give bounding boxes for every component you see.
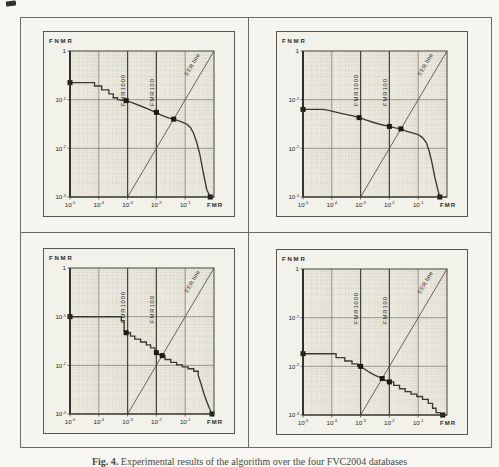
- svg-text:10-3: 10-3: [288, 411, 299, 418]
- svg-text:10-2: 10-2: [151, 417, 162, 424]
- det-plot-1: FMR1000FMR100EER line110-110-210-310-510…: [43, 31, 235, 217]
- svg-text:10-1: 10-1: [413, 418, 424, 425]
- svg-text:10-1: 10-1: [288, 314, 299, 321]
- svg-text:10-5: 10-5: [65, 200, 76, 207]
- svg-text:10-3: 10-3: [55, 193, 66, 200]
- det-plot-2: FMR1000FMR100EER line110-110-210-310-510…: [276, 31, 468, 217]
- det-plot-svg-3: FMR1000FMR100EER line110-110-210-310-510…: [44, 249, 234, 433]
- svg-text:10-2: 10-2: [288, 362, 299, 369]
- svg-text:10-1: 10-1: [180, 417, 191, 424]
- svg-text:10-4: 10-4: [93, 417, 104, 424]
- figure-cell-4: FMR1000FMR100EER line110-110-210-310-510…: [249, 233, 491, 447]
- svg-text:FMR: FMR: [440, 202, 456, 208]
- svg-text:FMR100: FMR100: [149, 78, 155, 106]
- svg-text:FMR100: FMR100: [382, 78, 388, 106]
- svg-text:10-1: 10-1: [413, 200, 424, 207]
- svg-text:10-1: 10-1: [288, 96, 299, 103]
- svg-text:10-3: 10-3: [122, 417, 133, 424]
- svg-text:10-4: 10-4: [93, 200, 104, 207]
- svg-text:10-3: 10-3: [355, 418, 366, 425]
- svg-text:10-2: 10-2: [288, 144, 299, 151]
- svg-text:FMR: FMR: [207, 419, 223, 425]
- svg-text:FNMR: FNMR: [282, 256, 307, 262]
- figure-caption-text: Experimental results of the algorithm ov…: [121, 456, 407, 467]
- svg-text:10-2: 10-2: [55, 144, 66, 151]
- scan-artifact: [6, 0, 17, 6]
- det-plot-svg-2: FMR1000FMR100EER line110-110-210-310-510…: [277, 32, 467, 216]
- svg-text:10-3: 10-3: [355, 200, 366, 207]
- svg-text:1: 1: [63, 264, 67, 271]
- svg-text:10-5: 10-5: [298, 200, 309, 207]
- svg-text:10-4: 10-4: [326, 418, 337, 425]
- svg-text:10-5: 10-5: [65, 417, 76, 424]
- svg-text:10-1: 10-1: [180, 200, 191, 207]
- svg-text:FMR100: FMR100: [382, 296, 388, 324]
- figure-caption-label: Fig. 4.: [92, 456, 118, 467]
- figure-cell-2: FMR1000FMR100EER line110-110-210-310-510…: [249, 18, 491, 233]
- svg-text:10-3: 10-3: [288, 193, 299, 200]
- det-plot-svg-1: FMR1000FMR100EER line110-110-210-310-510…: [44, 32, 234, 216]
- svg-text:FMR: FMR: [207, 202, 223, 208]
- svg-text:10-2: 10-2: [384, 200, 395, 207]
- svg-text:1: 1: [296, 265, 300, 272]
- figure-cell-3: FMR1000FMR100EER line110-110-210-310-510…: [21, 233, 249, 447]
- svg-text:10-3: 10-3: [122, 200, 133, 207]
- svg-text:10-2: 10-2: [151, 200, 162, 207]
- svg-text:FMR100: FMR100: [149, 295, 155, 323]
- svg-text:10-2: 10-2: [384, 418, 395, 425]
- svg-text:10-1: 10-1: [55, 96, 66, 103]
- svg-text:10-1: 10-1: [55, 313, 66, 320]
- svg-text:10-5: 10-5: [298, 418, 309, 425]
- svg-text:FMR: FMR: [440, 420, 456, 426]
- svg-text:FMR1000: FMR1000: [353, 292, 359, 324]
- svg-text:1: 1: [63, 47, 67, 54]
- det-plot-svg-4: FMR1000FMR100EER line110-110-210-310-510…: [277, 250, 467, 434]
- svg-text:FNMR: FNMR: [49, 38, 74, 44]
- figure-grid: FMR1000FMR100EER line110-110-210-310-510…: [20, 17, 492, 448]
- det-plot-3: FMR1000FMR100EER line110-110-210-310-510…: [43, 248, 235, 434]
- svg-text:FNMR: FNMR: [49, 255, 74, 261]
- svg-text:FMR1000: FMR1000: [353, 74, 359, 106]
- det-plot-4: FMR1000FMR100EER line110-110-210-310-510…: [276, 249, 468, 435]
- svg-text:1: 1: [296, 47, 300, 54]
- svg-text:10-3: 10-3: [55, 410, 66, 417]
- figure-caption: Fig. 4. Experimental results of the algo…: [0, 456, 499, 467]
- svg-text:FNMR: FNMR: [282, 38, 307, 44]
- svg-text:10-2: 10-2: [55, 361, 66, 368]
- svg-text:10-4: 10-4: [326, 200, 337, 207]
- figure-cell-1: FMR1000FMR100EER line110-110-210-310-510…: [21, 18, 249, 233]
